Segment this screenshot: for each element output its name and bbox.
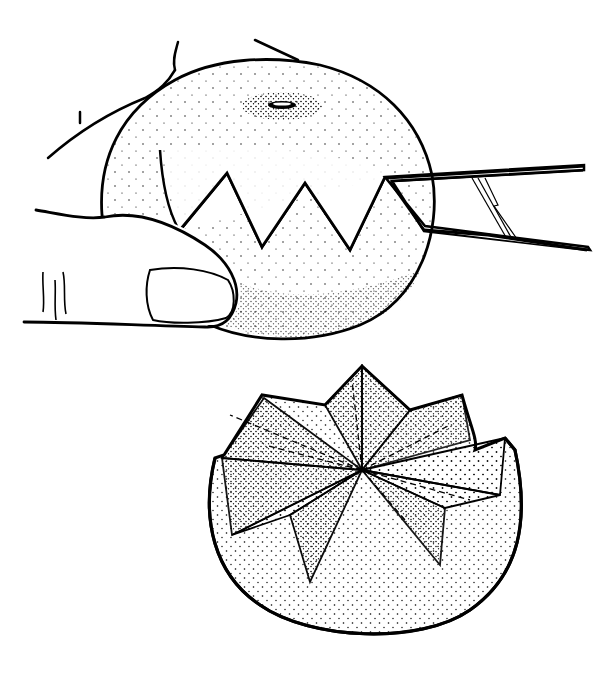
- illustration-canvas: [0, 0, 605, 677]
- bottom-panel-opened: [209, 366, 521, 634]
- line-drawing: [0, 0, 605, 677]
- top-panel-cutting: [0, 40, 590, 339]
